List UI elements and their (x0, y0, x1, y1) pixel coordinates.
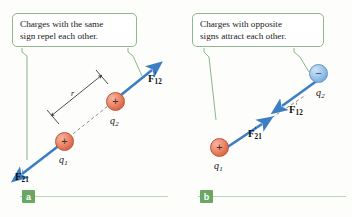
charge-q1-positive: + (210, 138, 229, 157)
force-label-F21: F21 (15, 172, 29, 184)
callout-box-a: Charges with the same sign repel each ot… (12, 13, 137, 47)
force-arrow-F12 (282, 80, 318, 106)
force-label-F12: F12 (289, 105, 303, 117)
callout-box-b: Charges with opposite signs attract each… (192, 13, 324, 47)
force-label-F21: F21 (248, 129, 262, 141)
panel-tag-b: b (200, 190, 213, 203)
callout-line-2: sign repel each other. (20, 31, 130, 43)
plus-sign-icon: + (56, 133, 73, 150)
minus-sign-icon: − (310, 65, 327, 82)
panel-b-rule (198, 196, 346, 197)
panel-b: Charges with opposite signs attract each… (176, 0, 352, 217)
callout-line-2: signs attract each other. (200, 31, 317, 43)
plus-sign-icon: + (107, 93, 124, 110)
charge-label-q1: q1 (59, 155, 68, 167)
distance-r-measure (47, 70, 108, 124)
force-arrows-b (226, 80, 318, 148)
callout-line-1: Charges with the same (20, 19, 130, 31)
charge-label-q2: q2 (110, 116, 119, 128)
charge-q2-positive: + (106, 92, 125, 111)
charge-label-q2: q2 (316, 88, 325, 100)
force-label-F12: F12 (148, 74, 162, 86)
separation-label-r: r (71, 90, 74, 98)
panel-a-rule (20, 196, 168, 197)
plus-sign-icon: + (211, 139, 228, 156)
panel-a: Charges with the same sign repel each ot… (0, 0, 176, 217)
charge-q2-negative: − (309, 64, 328, 83)
charge-label-q1: q1 (214, 161, 223, 173)
panel-tag-a: a (22, 190, 35, 203)
callout-line-1: Charges with opposite (200, 19, 317, 31)
force-arrows-a (22, 70, 152, 174)
coulomb-force-figure: Charges with the same sign repel each ot… (0, 0, 352, 217)
charge-q1-positive: + (55, 132, 74, 151)
